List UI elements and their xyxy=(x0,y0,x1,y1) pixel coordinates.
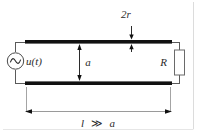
separation-annotation xyxy=(77,44,81,81)
much-greater-than-symbol: ≫ xyxy=(91,117,103,129)
arrow-up-down-icon-head-bottom xyxy=(77,75,81,81)
arrow-down-icon-head-upper xyxy=(129,34,133,39)
circuit-figure: 2r a l ≫ a u(t) R xyxy=(0,0,197,133)
length-symbol-l: l xyxy=(81,117,84,129)
arrow-up-icon-head-lower xyxy=(129,44,133,49)
bottom-conductor xyxy=(25,81,172,85)
source-voltage-label: u(t) xyxy=(26,55,42,68)
length-symbol-a: a xyxy=(110,117,116,129)
length-relation-label: l ≫ a xyxy=(81,117,116,129)
top-conductor xyxy=(25,40,172,44)
wire-diameter-annotation xyxy=(129,26,133,52)
resistor-icon xyxy=(175,50,185,75)
length-annotation xyxy=(25,87,172,114)
separation-label: a xyxy=(85,56,91,68)
resistor-label: R xyxy=(159,56,167,68)
wire-diameter-label: 2r xyxy=(121,8,132,20)
ac-source-icon xyxy=(7,53,23,69)
circuit-diagram-canvas: 2r a l ≫ a u(t) R xyxy=(0,0,197,133)
arrow-up-down-icon-head-top xyxy=(77,44,81,50)
